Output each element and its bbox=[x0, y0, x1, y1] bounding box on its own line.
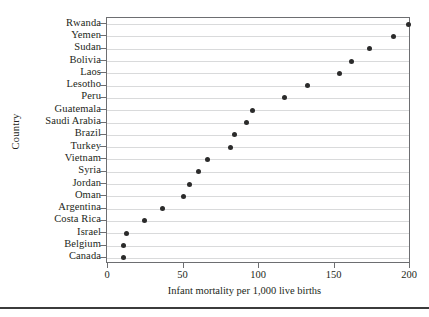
gridline bbox=[107, 73, 409, 74]
x-axis-tick-label: 50 bbox=[163, 269, 203, 281]
gridline bbox=[107, 86, 409, 87]
data-point bbox=[121, 243, 126, 248]
data-point bbox=[121, 255, 126, 260]
data-point bbox=[232, 132, 237, 137]
x-axis-tick-mark bbox=[107, 263, 108, 268]
data-point bbox=[196, 169, 201, 174]
gridline bbox=[107, 49, 409, 50]
x-axis-tick-mark bbox=[334, 263, 335, 268]
gridline bbox=[107, 184, 409, 185]
x-axis-tick-label: 150 bbox=[314, 269, 354, 281]
gridline bbox=[107, 172, 409, 173]
gridline bbox=[107, 196, 409, 197]
x-axis-tick-label: 200 bbox=[389, 269, 429, 281]
x-axis-tick-mark bbox=[183, 263, 184, 268]
data-point bbox=[124, 231, 129, 236]
data-point bbox=[337, 71, 342, 76]
x-axis-tick-label: 0 bbox=[87, 269, 127, 281]
data-point bbox=[406, 22, 411, 27]
x-axis-tick-label: 100 bbox=[238, 269, 278, 281]
x-axis-tick-mark bbox=[409, 263, 410, 268]
data-point bbox=[160, 206, 165, 211]
y-axis-tick-marks bbox=[0, 17, 106, 263]
x-axis-ticks: 050100150200 bbox=[106, 263, 410, 285]
x-axis-title: Infant mortality per 1,000 live births bbox=[0, 285, 429, 296]
x-axis-title-text: Infant mortality per 1,000 live births bbox=[108, 285, 321, 296]
gridline bbox=[107, 110, 409, 111]
data-point bbox=[349, 59, 354, 64]
gridline bbox=[107, 147, 409, 148]
data-point bbox=[142, 218, 147, 223]
data-point bbox=[187, 182, 192, 187]
data-point bbox=[282, 95, 287, 100]
plot-area bbox=[106, 17, 410, 263]
data-point bbox=[391, 34, 396, 39]
gridline bbox=[107, 258, 409, 259]
gridline bbox=[107, 221, 409, 222]
gridline bbox=[107, 233, 409, 234]
scatter-chart-figure: Country RwandaYemenSudanBoliviaLaosLesot… bbox=[0, 0, 429, 317]
data-point bbox=[205, 157, 210, 162]
data-point bbox=[228, 145, 233, 150]
gridline bbox=[107, 24, 409, 25]
data-point bbox=[244, 120, 249, 125]
x-axis-tick-mark bbox=[258, 263, 259, 268]
gridline bbox=[107, 123, 409, 124]
gridline bbox=[107, 135, 409, 136]
gridline bbox=[107, 61, 409, 62]
data-point bbox=[250, 108, 255, 113]
data-point bbox=[367, 46, 372, 51]
gridline bbox=[107, 159, 409, 160]
gridline bbox=[107, 209, 409, 210]
footer-rule bbox=[0, 307, 429, 309]
data-point bbox=[305, 83, 310, 88]
gridline bbox=[107, 98, 409, 99]
gridline bbox=[107, 36, 409, 37]
data-point bbox=[181, 194, 186, 199]
gridline bbox=[107, 246, 409, 247]
